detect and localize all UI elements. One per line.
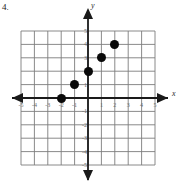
y-tick-3: 3 bbox=[77, 55, 87, 61]
x-tick-neg3: -3 bbox=[43, 102, 53, 108]
y-tick-neg3: -3 bbox=[77, 135, 87, 141]
y-axis-label: y bbox=[91, 2, 95, 10]
x-tick-neg4: -4 bbox=[29, 102, 39, 108]
x-tick-2: 2 bbox=[110, 102, 120, 108]
x-tick-neg2: -2 bbox=[56, 102, 66, 108]
x-tick-5: 5 bbox=[150, 102, 160, 108]
y-tick-neg2: -2 bbox=[77, 122, 87, 128]
coordinate-plane: -5-4-3-2-11234554321-1-2-3-4-5 x y bbox=[0, 0, 181, 182]
y-tick-5: 5 bbox=[77, 28, 87, 34]
data-point bbox=[84, 67, 93, 76]
y-tick-neg5: -5 bbox=[77, 162, 87, 168]
grid-svg bbox=[0, 0, 181, 182]
x-tick-neg1: -1 bbox=[70, 102, 80, 108]
y-tick-4: 4 bbox=[77, 41, 87, 47]
x-tick-4: 4 bbox=[137, 102, 147, 108]
y-tick-neg1: -1 bbox=[77, 108, 87, 114]
y-tick-neg4: -4 bbox=[77, 149, 87, 155]
x-tick-1: 1 bbox=[96, 102, 106, 108]
x-tick-3: 3 bbox=[123, 102, 133, 108]
x-axis-label: x bbox=[172, 90, 176, 98]
x-tick-neg5: -5 bbox=[16, 102, 26, 108]
data-point bbox=[57, 94, 66, 103]
axes bbox=[12, 8, 168, 181]
